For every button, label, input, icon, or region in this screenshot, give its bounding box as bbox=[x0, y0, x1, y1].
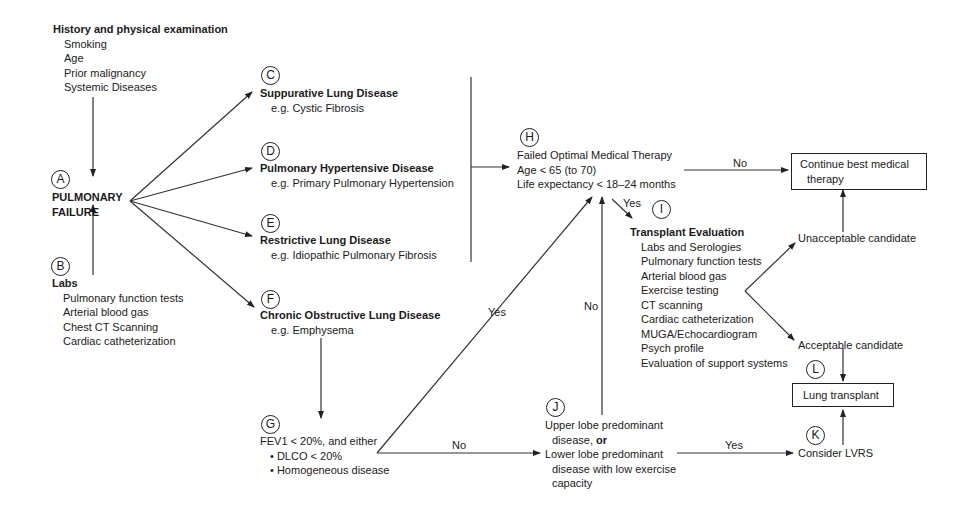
pulm-hypertensive-block: Pulmonary Hypertensive Disease e.g. Prim… bbox=[260, 161, 454, 190]
history-item: Systemic Diseases bbox=[64, 80, 228, 95]
acceptable-candidate: Acceptable candidate bbox=[798, 338, 903, 353]
suppurative-example: e.g. Cystic Fibrosis bbox=[260, 101, 398, 116]
pulmonary-failure-line1: PULMONARY bbox=[52, 190, 122, 205]
pulm-hypertensive-example: e.g. Primary Pulmonary Hypertension bbox=[260, 176, 454, 191]
labs-item: Arterial blood gas bbox=[63, 305, 183, 320]
restrictive-title: Restrictive Lung Disease bbox=[260, 233, 437, 248]
history-block: History and physical examination Smoking… bbox=[53, 22, 228, 95]
pulm-hypertensive-title: Pulmonary Hypertensive Disease bbox=[260, 161, 454, 176]
eval-item: Arterial blood gas bbox=[641, 269, 788, 284]
suppurative-title: Suppurative Lung Disease bbox=[260, 86, 398, 101]
lobe-block: Upper lobe predominant disease, or Lower… bbox=[545, 418, 676, 491]
history-item: Prior malignancy bbox=[64, 66, 228, 81]
lung-transplant-box: Lung transplant bbox=[792, 383, 894, 407]
continue-line: Continue best medical bbox=[800, 157, 909, 172]
node-label-f: F bbox=[261, 290, 280, 309]
continue-therapy-box: Continue best medical therapy bbox=[791, 153, 927, 190]
copd-block: Chronic Obstructive Lung Disease e.g. Em… bbox=[260, 308, 440, 337]
labs-item: Pulmonary function tests bbox=[63, 291, 183, 306]
history-title: History and physical examination bbox=[53, 22, 228, 37]
edge-label-no: No bbox=[733, 156, 747, 171]
history-item: Age bbox=[64, 51, 228, 66]
node-label-a: A bbox=[51, 170, 70, 189]
node-label-e: E bbox=[261, 214, 280, 233]
edge-label-no: No bbox=[584, 299, 598, 314]
eval-item: Psych profile bbox=[641, 341, 788, 356]
continue-line: therapy bbox=[800, 172, 909, 187]
edge-label-no: No bbox=[452, 438, 466, 453]
criteria-line: Age < 65 (to 70) bbox=[517, 163, 676, 178]
transplant-eval-block: Transplant Evaluation Labs and Serologie… bbox=[630, 225, 788, 370]
edge-label-yes: Yes bbox=[725, 438, 743, 453]
node-label-i: I bbox=[652, 200, 671, 219]
node-pulmonary-failure: PULMONARY FAILURE bbox=[52, 190, 122, 219]
restrictive-example: e.g. Idiopathic Pulmonary Fibrosis bbox=[260, 248, 437, 263]
pulmonary-failure-line2: FAILURE bbox=[52, 205, 122, 220]
lobe-line: capacity bbox=[545, 476, 676, 491]
fev1-block: FEV1 < 20%, and either • DLCO < 20% • Ho… bbox=[260, 434, 389, 478]
labs-item: Chest CT Scanning bbox=[63, 320, 183, 335]
node-label-k: K bbox=[806, 426, 825, 445]
lobe-line: disease, bbox=[552, 434, 596, 446]
lobe-line: disease with low exercise bbox=[545, 462, 676, 477]
copd-title: Chronic Obstructive Lung Disease bbox=[260, 308, 440, 323]
node-label-d: D bbox=[261, 142, 280, 161]
node-label-c: C bbox=[261, 66, 280, 85]
fev1-bullet: DLCO < 20% bbox=[277, 450, 342, 462]
node-label-b: B bbox=[51, 257, 70, 276]
labs-title: Labs bbox=[52, 276, 183, 291]
eval-item: Exercise testing bbox=[641, 283, 788, 298]
edge-label-yes: Yes bbox=[623, 196, 641, 211]
lung-transplant-text: Lung transplant bbox=[803, 388, 879, 403]
copd-example: e.g. Emphysema bbox=[260, 323, 440, 338]
eval-item: Labs and Serologies bbox=[641, 240, 788, 255]
criteria-line: Life expectancy < 18–24 months bbox=[517, 177, 676, 192]
consider-lvrs: Consider LVRS bbox=[798, 446, 873, 461]
criteria-line: Failed Optimal Medical Therapy bbox=[517, 148, 676, 163]
criteria-block: Failed Optimal Medical Therapy Age < 65 … bbox=[517, 148, 676, 192]
eval-item: CT scanning bbox=[641, 298, 788, 313]
node-label-g: G bbox=[261, 415, 280, 434]
fev1-bullet: Homogeneous disease bbox=[277, 464, 390, 476]
fev1-line: FEV1 < 20%, and either bbox=[260, 434, 389, 449]
unacceptable-candidate: Unacceptable candidate bbox=[798, 231, 916, 246]
eval-item: Cardiac catheterization bbox=[641, 312, 788, 327]
eval-item: MUGA/Echocardiogram bbox=[641, 327, 788, 342]
edge-label-yes: Yes bbox=[488, 305, 506, 320]
node-label-j: J bbox=[546, 398, 565, 417]
restrictive-block: Restrictive Lung Disease e.g. Idiopathic… bbox=[260, 233, 437, 262]
lobe-or: or bbox=[596, 434, 607, 446]
labs-block: Labs Pulmonary function tests Arterial b… bbox=[52, 276, 183, 349]
labs-item: Cardiac catheterization bbox=[63, 334, 183, 349]
lobe-line: Lower lobe predominant bbox=[545, 447, 676, 462]
lobe-line: Upper lobe predominant bbox=[545, 418, 676, 433]
node-label-l: L bbox=[806, 360, 825, 379]
node-label-h: H bbox=[520, 128, 539, 147]
eval-item: Evaluation of support systems bbox=[641, 356, 788, 371]
history-item: Smoking bbox=[64, 37, 228, 52]
suppurative-block: Suppurative Lung Disease e.g. Cystic Fib… bbox=[260, 86, 398, 115]
eval-item: Pulmonary function tests bbox=[641, 254, 788, 269]
transplant-eval-title: Transplant Evaluation bbox=[630, 225, 788, 240]
